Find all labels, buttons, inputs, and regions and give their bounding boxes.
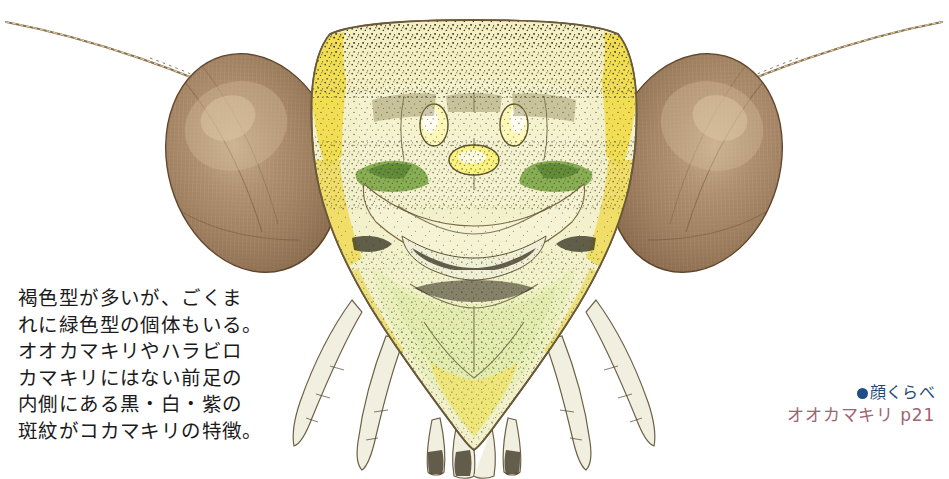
cross-reference-heading: 顔くらべ xyxy=(787,382,935,403)
caption-line-2: れに緑色型の個体もいる。 xyxy=(18,313,288,340)
caption-line-4: カマキリにはない前足の xyxy=(18,366,288,393)
caption-text-block: 褐色型が多いが、ごくま れに緑色型の個体もいる。 オオカマキリやハラビロ カマキ… xyxy=(18,286,288,445)
caption-line-3: オオカマキリやハラビロ xyxy=(18,339,288,366)
caption-line-1: 褐色型が多いが、ごくま xyxy=(18,286,288,313)
bullet-icon xyxy=(857,388,868,399)
caption-line-6: 斑紋がコカマキリの特徴。 xyxy=(18,419,288,446)
cross-reference-heading-label: 顔くらべ xyxy=(870,383,935,402)
page-root: 褐色型が多いが、ごくま れに緑色型の個体もいる。 オオカマキリやハラビロ カマキ… xyxy=(0,0,949,479)
cross-reference-target[interactable]: オオカマキリ p21 xyxy=(787,404,935,427)
caption-line-5: 内側にある黒・白・紫の xyxy=(18,392,288,419)
cross-reference-block: 顔くらべ オオカマキリ p21 xyxy=(787,382,935,427)
